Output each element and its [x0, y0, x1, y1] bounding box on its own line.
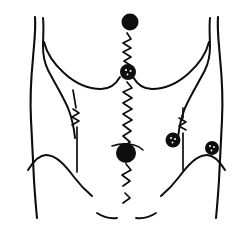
left-lateral-drain-line-upper [73, 90, 76, 108]
abdomen-illustration-canvas [0, 0, 252, 235]
left-torso-flank-outline [31, 17, 37, 218]
midline-incision-zigzag-upper [123, 33, 131, 65]
left-inguinal-crease-outline [97, 213, 117, 218]
right-lower-quadrant-port-dot[interactable] [166, 133, 181, 148]
right-torso-flank-outline [216, 17, 222, 218]
supraumbilical-port-notch-b [130, 70, 132, 72]
left-lateral-drain-line [72, 90, 79, 172]
rlq-port-notch-b [174, 138, 176, 140]
supraumbilical-port-site[interactable] [120, 64, 136, 80]
right-lower-quadrant-port-site[interactable] [166, 133, 181, 148]
supraumbilical-port-notch-c [127, 74, 129, 76]
right-inguinal-crease-outline [136, 213, 156, 218]
midline-incision-zigzag-tail [123, 193, 130, 203]
right-iliac-crest-outline [161, 155, 225, 196]
rlq-port-notch-a [170, 137, 172, 139]
umbilical-port-dot[interactable] [116, 143, 136, 163]
epigastric-port-dot[interactable] [122, 14, 139, 31]
rlq-port-notch-c [172, 142, 174, 144]
right-body-outline-group [133, 17, 222, 218]
right-flank-port-notch-a [209, 145, 211, 147]
right-flank-port-notch-c [211, 150, 213, 152]
epigastric-port-site[interactable] [122, 14, 139, 31]
abdomen-diagram-figure: Abdominal surgical site diagram [0, 0, 252, 235]
supraumbilical-port-notch-a [125, 69, 127, 71]
right-flank-port-dot[interactable] [205, 141, 219, 155]
midline-incision-zigzag-mid [123, 82, 132, 146]
supraumbilical-port-dot[interactable] [120, 64, 136, 80]
midline-incision-scar [112, 33, 143, 203]
umbilical-port-site[interactable] [116, 143, 136, 163]
right-flank-port-site[interactable] [205, 141, 219, 155]
midline-incision-zigzag-lower [122, 164, 131, 186]
right-flank-port-notch-b [213, 146, 215, 148]
left-iliac-crest-outline [28, 155, 92, 196]
left-body-outline-group [31, 17, 120, 218]
